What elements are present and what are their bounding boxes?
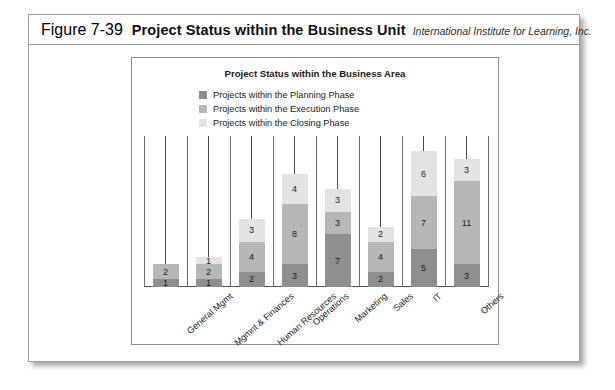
figure-title: Project Status within the Business Unit (132, 22, 406, 38)
x-axis-labels: General MgmtMgmnt & FinancesHuman Resour… (144, 287, 488, 343)
bar-segment: 2 (153, 264, 179, 279)
bar-segment: 4 (282, 174, 308, 204)
chart-title: Project Status within the Business Area (132, 68, 498, 79)
legend-swatch-icon (199, 91, 207, 99)
bar-segment: 1 (196, 279, 222, 287)
bar-segment: 8 (282, 204, 308, 264)
bar-segment: 2 (368, 227, 394, 242)
x-axis-label: Others (478, 291, 505, 316)
chart-legend: Projects within the Planning PhaseProjec… (199, 88, 359, 130)
bar-column[interactable]: 21 (144, 136, 187, 287)
legend-label: Projects within the Planning Phase (213, 90, 354, 100)
bar-segment: 1 (153, 279, 179, 287)
bar-segment: 3 (325, 189, 351, 212)
x-axis-label: Marketing (352, 291, 388, 324)
bar-segment: 7 (411, 196, 437, 249)
bar-stem-line (165, 136, 166, 264)
bar-segment: 6 (411, 151, 437, 196)
bar-segment: 2 (239, 272, 265, 287)
bar-column[interactable]: 337 (316, 136, 359, 287)
bar-segment: 3 (282, 264, 308, 287)
x-axis-label: Sales (391, 291, 415, 313)
chart-plot-area: 211213424833372426753113 (144, 136, 488, 287)
legend-label: Projects within the Closing Phase (213, 118, 349, 128)
bar-segment: 1 (196, 257, 222, 265)
legend-item[interactable]: Projects within the Closing Phase (199, 116, 359, 129)
bar-column[interactable]: 675 (402, 136, 445, 287)
bar-stem-line (294, 136, 295, 174)
figure-source: International Institute for Learning, In… (413, 25, 592, 37)
bar-stem-line (337, 136, 338, 189)
chart-frame: Project Status within the Business Area … (131, 57, 499, 345)
bar-segment: 2 (368, 272, 394, 287)
bar-stack[interactable]: 21 (153, 264, 179, 287)
legend-swatch-icon (199, 105, 207, 113)
bar-segment: 3 (325, 212, 351, 235)
bar-stem-line (423, 136, 424, 151)
figure-page: Figure 7-39 Project Status within the Bu… (28, 14, 580, 362)
legend-item[interactable]: Projects within the Planning Phase (199, 88, 359, 101)
bar-stem-line (251, 136, 252, 219)
x-axis-label: General Mgmt (185, 291, 235, 336)
bar-stack[interactable]: 483 (282, 174, 308, 287)
legend-label: Projects within the Execution Phase (213, 104, 359, 114)
x-axis-label: IT (431, 291, 444, 304)
bar-segment: 7 (325, 234, 351, 287)
bar-segment: 11 (454, 181, 480, 264)
bar-segment: 3 (454, 264, 480, 287)
bar-column[interactable]: 3113 (445, 136, 488, 287)
bar-stack[interactable]: 337 (325, 189, 351, 287)
bar-segment: 3 (454, 159, 480, 182)
figure-caption-bar: Figure 7-39 Project Status within the Bu… (29, 15, 579, 45)
chart-gridline (488, 136, 489, 287)
bar-column[interactable]: 242 (359, 136, 402, 287)
bar-segment: 4 (368, 242, 394, 272)
bar-stack[interactable]: 3113 (454, 159, 480, 287)
bar-column[interactable]: 342 (230, 136, 273, 287)
bar-segment: 5 (411, 249, 437, 287)
bar-stem-line (466, 136, 467, 159)
bar-stack[interactable]: 675 (411, 151, 437, 287)
bar-stack[interactable]: 342 (239, 219, 265, 287)
bar-stem-line (208, 136, 209, 257)
bar-segment: 4 (239, 242, 265, 272)
legend-swatch-icon (199, 119, 207, 127)
bar-stem-line (380, 136, 381, 227)
bar-stack[interactable]: 242 (368, 227, 394, 287)
figure-number: Figure 7-39 (41, 21, 123, 39)
bar-column[interactable]: 483 (273, 136, 316, 287)
bar-segment: 3 (239, 219, 265, 242)
bar-column[interactable]: 121 (187, 136, 230, 287)
legend-item[interactable]: Projects within the Execution Phase (199, 102, 359, 115)
bar-segment: 2 (196, 264, 222, 279)
bar-stack[interactable]: 121 (196, 257, 222, 287)
